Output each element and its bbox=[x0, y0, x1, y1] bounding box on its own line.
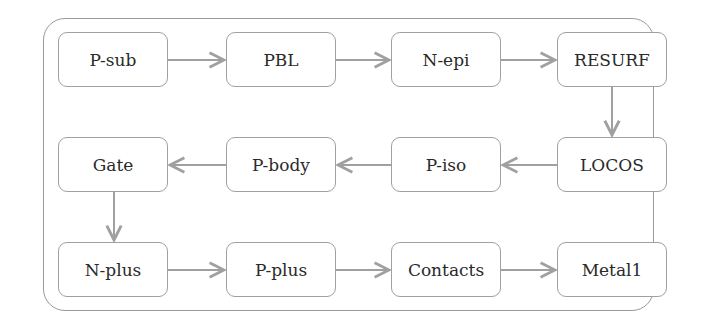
node-resurf: RESURF bbox=[557, 32, 667, 87]
node-pbl: PBL bbox=[226, 32, 336, 87]
node-label: P-plus bbox=[255, 260, 307, 280]
node-gate: Gate bbox=[58, 137, 168, 192]
node-label: N-epi bbox=[423, 50, 470, 70]
node-label: P-iso bbox=[426, 155, 467, 175]
node-label: LOCOS bbox=[580, 155, 644, 175]
node-locos: LOCOS bbox=[557, 137, 667, 192]
node-label: Metal1 bbox=[582, 260, 643, 280]
node-contacts: Contacts bbox=[391, 242, 501, 297]
node-p-sub: P-sub bbox=[58, 32, 168, 87]
node-label: Contacts bbox=[408, 260, 484, 280]
node-label: N-plus bbox=[85, 260, 142, 280]
node-label: Gate bbox=[93, 155, 134, 175]
node-p-body: P-body bbox=[226, 137, 336, 192]
node-label: P-sub bbox=[90, 50, 137, 70]
node-label: PBL bbox=[263, 50, 298, 70]
node-n-epi: N-epi bbox=[391, 32, 501, 87]
node-p-iso: P-iso bbox=[391, 137, 501, 192]
node-label: RESURF bbox=[574, 50, 650, 70]
node-p-plus: P-plus bbox=[226, 242, 336, 297]
node-n-plus: N-plus bbox=[58, 242, 168, 297]
node-metal1: Metal1 bbox=[557, 242, 667, 297]
node-label: P-body bbox=[252, 155, 310, 175]
